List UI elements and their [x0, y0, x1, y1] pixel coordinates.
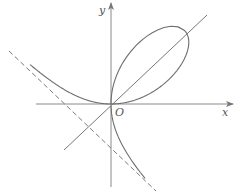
- folium-diagram: y x O: [0, 0, 241, 193]
- folium-curve: [30, 26, 189, 178]
- y-axis-label: y: [98, 4, 106, 17]
- x-axis-label: x: [222, 106, 229, 119]
- origin-label: O: [115, 106, 124, 119]
- symmetry-line: [64, 15, 207, 150]
- asymptote-dashed-line: [9, 51, 156, 191]
